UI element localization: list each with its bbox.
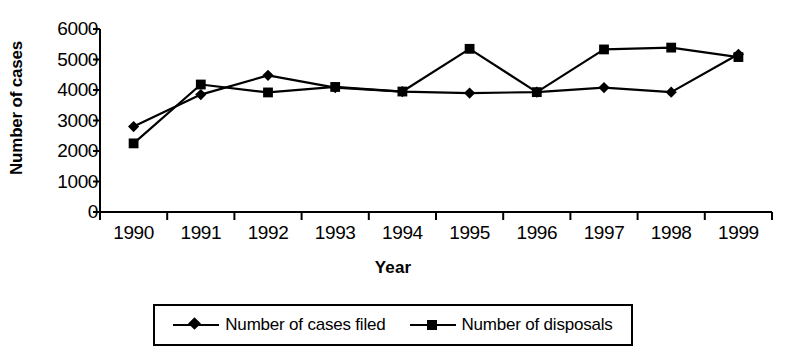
series-line bbox=[134, 48, 739, 144]
square-marker-icon bbox=[666, 43, 676, 53]
legend-item-cases-filed: Number of cases filed bbox=[173, 315, 385, 335]
diamond-marker-icon bbox=[464, 87, 475, 98]
square-marker-icon bbox=[196, 80, 206, 90]
square-marker-icon bbox=[398, 87, 408, 97]
diamond-marker-icon bbox=[173, 317, 219, 333]
square-marker-icon bbox=[532, 87, 542, 97]
x-tick-label: 1991 bbox=[180, 222, 221, 244]
chart-legend: Number of cases filed Number of disposal… bbox=[153, 304, 633, 346]
y-axis-ticks bbox=[93, 29, 100, 212]
x-tick-label: 1995 bbox=[449, 222, 490, 244]
x-tick-label: 1998 bbox=[651, 222, 692, 244]
x-tick-label: 1990 bbox=[113, 222, 154, 244]
square-marker-icon bbox=[129, 138, 139, 148]
x-tick-label: 1993 bbox=[315, 222, 356, 244]
x-axis-ticks bbox=[100, 212, 772, 220]
diamond-marker-icon bbox=[195, 89, 206, 100]
diamond-marker-icon bbox=[666, 87, 677, 98]
legend-label-cases-filed: Number of cases filed bbox=[225, 315, 385, 335]
series-1 bbox=[128, 49, 744, 132]
x-tick-label: 1996 bbox=[516, 222, 557, 244]
x-axis-title: Year bbox=[0, 258, 786, 278]
diamond-marker-icon bbox=[128, 121, 139, 132]
x-tick-label: 1999 bbox=[718, 222, 759, 244]
legend-label-disposals: Number of disposals bbox=[462, 315, 613, 335]
diamond-marker-icon bbox=[262, 70, 273, 81]
line-chart: Number of cases 010002000300040005000600… bbox=[0, 0, 786, 363]
x-tick-label: 1992 bbox=[248, 222, 289, 244]
square-marker-icon bbox=[734, 52, 744, 62]
x-tick-label: 1994 bbox=[382, 222, 423, 244]
square-marker-icon bbox=[263, 88, 273, 98]
square-marker-icon bbox=[330, 82, 340, 92]
x-tick-label: 1997 bbox=[584, 222, 625, 244]
series-2 bbox=[129, 43, 744, 149]
square-marker-icon bbox=[599, 45, 609, 55]
square-marker-icon bbox=[465, 44, 475, 54]
x-axis-tick-labels: 1990199119921993199419951996199719981999 bbox=[100, 222, 772, 250]
series-layer bbox=[128, 43, 744, 149]
legend-item-disposals: Number of disposals bbox=[410, 315, 613, 335]
diamond-marker-icon bbox=[598, 82, 609, 93]
series-line bbox=[134, 54, 739, 126]
square-marker-icon bbox=[410, 317, 456, 333]
axis-lines bbox=[100, 29, 772, 212]
